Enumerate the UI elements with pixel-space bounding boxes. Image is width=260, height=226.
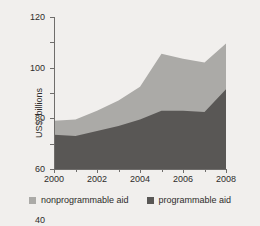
stacked-area-chart	[54, 17, 226, 169]
plot-area	[54, 17, 226, 169]
y-tick-label: 80	[35, 114, 45, 123]
legend-swatch-icon	[29, 197, 36, 204]
legend-swatch-icon	[147, 197, 154, 204]
x-tick-label: 2006	[173, 175, 193, 184]
y-tick-label: 40	[35, 215, 45, 224]
y-tick-label: 100	[30, 63, 45, 72]
y-axis-line	[54, 17, 55, 169]
x-tick-label: 2008	[216, 175, 236, 184]
chart-figure: US$, billions 020406080100120 2000200220…	[0, 0, 260, 226]
legend-item[interactable]: programmable aid	[147, 196, 232, 205]
y-tick-label: 120	[30, 13, 45, 22]
chart-legend: nonprogrammable aidprogrammable aid	[0, 196, 260, 205]
y-tick-label: 60	[35, 165, 45, 174]
x-tick-label: 2002	[87, 175, 107, 184]
legend-item[interactable]: nonprogrammable aid	[29, 196, 129, 205]
plot-frame: 020406080100120 20002002200420062008	[54, 17, 226, 169]
legend-label: nonprogrammable aid	[41, 196, 129, 205]
legend-label: programmable aid	[159, 196, 232, 205]
x-axis-line	[54, 169, 226, 170]
x-tick-label: 2004	[130, 175, 150, 184]
x-tick-label: 2000	[44, 175, 64, 184]
x-tick-mark	[226, 169, 227, 173]
